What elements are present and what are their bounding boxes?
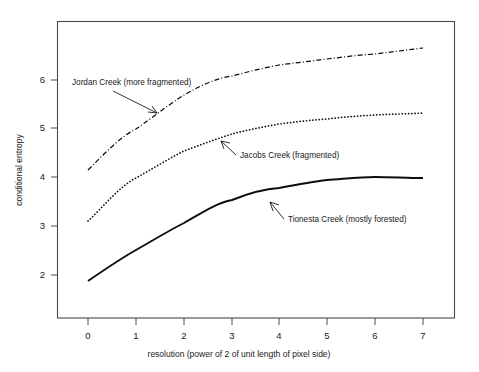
x-tick-label: 5: [324, 330, 329, 341]
y-tick-label: 6: [40, 74, 45, 85]
x-tick-label: 3: [229, 330, 234, 341]
y-tick-label: 2: [40, 269, 45, 280]
annotation-label-tionesta-creek: Tionesta Creek (mostly forested): [288, 215, 407, 224]
entropy-vs-resolution-chart: 0 1 2 3 4 5 6 7 6 5 4 3 2 resolution (po…: [0, 0, 479, 372]
y-axis-title: conditional entropy: [14, 134, 24, 206]
annotation-label-jordan-creek: Jordan Creek (more fragmented): [72, 78, 191, 87]
x-tick-label: 7: [420, 330, 425, 341]
annotation-label-jacobs-creek: Jacobs Creek (fragmented): [240, 151, 339, 160]
x-axis-title: resolution (power of 2 of unit length of…: [148, 349, 331, 359]
y-tick-label: 4: [40, 171, 45, 182]
x-tick-label: 1: [133, 330, 138, 341]
x-tick-label: 2: [181, 330, 186, 341]
x-tick-label: 0: [85, 330, 90, 341]
y-tick-label: 5: [40, 122, 45, 133]
figure-background: [0, 0, 479, 372]
y-tick-label: 3: [40, 220, 45, 231]
x-tick-label: 4: [276, 330, 281, 341]
x-tick-label: 6: [372, 330, 377, 341]
